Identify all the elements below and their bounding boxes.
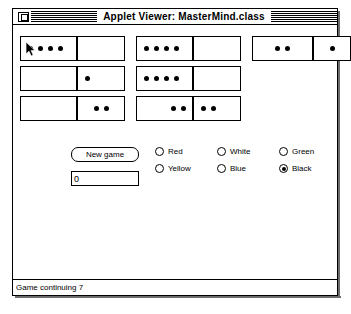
guess-peg [174, 76, 179, 81]
score-peg [104, 106, 109, 111]
guess-peg [144, 76, 149, 81]
score-cell[interactable] [77, 36, 125, 61]
radio-option-yellow[interactable]: Yellow [155, 164, 217, 173]
close-box-outer [18, 12, 29, 22]
guess-peg [174, 46, 179, 51]
title-bar: Applet Viewer: MasterMind.class [13, 9, 337, 25]
guess-cell-placeholder [252, 96, 313, 121]
window-title: Applet Viewer: MasterMind.class [97, 10, 271, 24]
radio-option-black[interactable]: Black [279, 164, 341, 173]
radio-unselected-icon[interactable] [279, 147, 288, 156]
guess-peg [28, 46, 33, 51]
guess-peg [38, 46, 43, 51]
radio-label: White [230, 147, 250, 156]
radio-label: Blue [230, 164, 246, 173]
score-cell[interactable] [77, 96, 125, 121]
applet-viewer-window: Applet Viewer: MasterMind.class New game… [12, 8, 338, 296]
radio-unselected-icon[interactable] [155, 164, 164, 173]
controls-area: New game RedWhiteGreenYellowBlueBlack [71, 143, 341, 186]
radio-option-blue[interactable]: Blue [217, 164, 279, 173]
board-pair [20, 96, 125, 121]
close-box-icon[interactable] [15, 10, 31, 24]
color-radio-group: RedWhiteGreenYellowBlueBlack [155, 143, 341, 177]
score-peg [330, 46, 335, 51]
guess-peg [181, 106, 186, 111]
guess-cell[interactable] [136, 36, 193, 61]
board-pair [252, 96, 351, 121]
radio-unselected-icon[interactable] [217, 164, 226, 173]
guess-cell[interactable] [136, 66, 193, 91]
guess-cell[interactable] [20, 66, 77, 91]
score-cell-placeholder [313, 66, 351, 91]
guess-cell[interactable] [20, 96, 77, 121]
board-pair [252, 66, 351, 91]
score-cell[interactable] [193, 96, 241, 121]
left-controls: New game [71, 143, 143, 186]
guess-peg [48, 46, 53, 51]
radio-selected-icon[interactable] [279, 164, 288, 173]
board-row [20, 96, 330, 121]
guess-peg [285, 46, 290, 51]
score-peg [211, 106, 216, 111]
applet-content: New game RedWhiteGreenYellowBlueBlack Ga… [13, 25, 337, 295]
guess-peg [154, 46, 159, 51]
guess-peg [154, 76, 159, 81]
score-peg [85, 76, 90, 81]
window-shadow-bottom [15, 296, 341, 298]
score-peg [201, 106, 206, 111]
guess-cell[interactable] [20, 36, 77, 61]
guess-peg [275, 46, 280, 51]
guess-peg [164, 76, 169, 81]
radio-option-white[interactable]: White [217, 147, 279, 156]
status-message: Game continuing 7 [13, 283, 83, 292]
score-cell[interactable] [193, 66, 241, 91]
board-pair [136, 36, 241, 61]
new-game-button[interactable]: New game [71, 147, 139, 162]
board-pair [136, 66, 241, 91]
guess-input[interactable] [71, 171, 139, 186]
mastermind-board [20, 36, 330, 126]
score-cell[interactable] [313, 36, 351, 61]
radio-label: Red [168, 147, 183, 156]
title-stripes-left [31, 11, 97, 22]
radio-label: Yellow [168, 164, 191, 173]
score-cell[interactable] [77, 66, 125, 91]
guess-peg [171, 106, 176, 111]
board-row [20, 36, 330, 61]
radio-unselected-icon[interactable] [217, 147, 226, 156]
board-row [20, 66, 330, 91]
score-cell[interactable] [193, 36, 241, 61]
board-pair [136, 96, 241, 121]
radio-label: Black [292, 164, 312, 173]
radio-option-red[interactable]: Red [155, 147, 217, 156]
guess-cell[interactable] [136, 96, 193, 121]
title-stripes-right [271, 11, 337, 22]
score-peg [94, 106, 99, 111]
radio-option-green[interactable]: Green [279, 147, 341, 156]
guess-cell-placeholder [252, 66, 313, 91]
guess-peg [164, 46, 169, 51]
status-bar: Game continuing 7 [13, 279, 337, 295]
guess-cell[interactable] [252, 36, 313, 61]
radio-label: Green [292, 147, 314, 156]
score-cell-placeholder [313, 96, 351, 121]
radio-unselected-icon[interactable] [155, 147, 164, 156]
board-pair [20, 36, 125, 61]
board-pair [252, 36, 351, 61]
board-pair [20, 66, 125, 91]
guess-peg [58, 46, 63, 51]
close-box-inner [21, 14, 28, 21]
guess-peg [144, 46, 149, 51]
